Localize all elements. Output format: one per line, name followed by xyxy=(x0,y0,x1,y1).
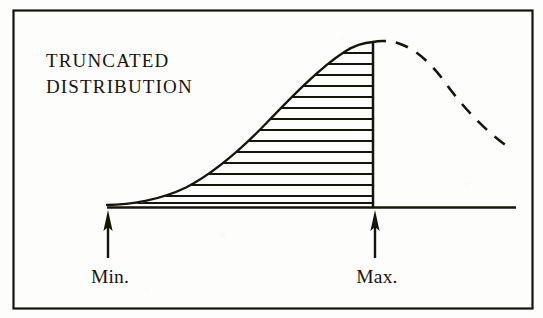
paper-background xyxy=(0,0,543,318)
figure-root: TRUNCATED DISTRIBUTION Min. Max. xyxy=(0,0,543,318)
chart-title-line-2: DISTRIBUTION xyxy=(46,76,193,97)
min-axis-label: Min. xyxy=(91,266,129,287)
truncated-distribution-chart: TRUNCATED DISTRIBUTION Min. Max. xyxy=(0,0,543,318)
max-axis-label: Max. xyxy=(356,266,397,287)
chart-title-line-1: TRUNCATED xyxy=(46,50,169,71)
